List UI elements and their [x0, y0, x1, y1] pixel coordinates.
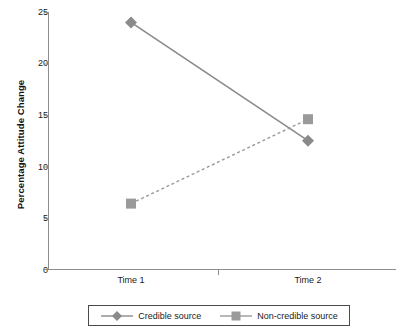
series-line-credible-source — [131, 22, 308, 140]
data-point-credible-source-time-2 — [302, 135, 314, 147]
data-point-non-credible-source-time-1 — [126, 199, 136, 209]
data-point-credible-source-time-1 — [125, 16, 137, 28]
plot-area — [0, 0, 405, 336]
legend-label-credible-source: Credible source — [138, 311, 201, 321]
legend-entry-credible-source: Credible source — [100, 310, 201, 322]
legend-label-non-credible-source: Non-credible source — [257, 311, 338, 321]
attitude-change-line-chart: Percentage Attitude Change 25 20 15 10 5… — [0, 0, 405, 336]
series-line-non-credible-source — [131, 119, 308, 203]
square-marker-icon — [219, 310, 253, 322]
legend-entry-non-credible-source: Non-credible source — [219, 310, 338, 322]
diamond-marker-icon — [100, 310, 134, 322]
chart-legend: Credible source Non-credible source — [88, 305, 350, 326]
data-point-non-credible-source-time-2 — [303, 114, 313, 124]
